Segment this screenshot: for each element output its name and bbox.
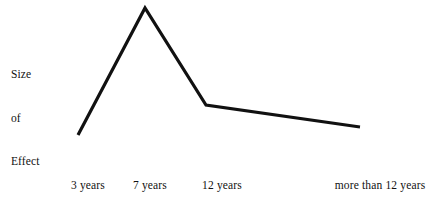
y-axis-label-line-1: Size (11, 67, 39, 82)
x-tick-label-3-years: 3 years (71, 178, 105, 192)
x-tick-label-12-years: 12 years (202, 178, 242, 192)
x-tick-label-more-than-12-years: more than 12 years (335, 178, 426, 192)
x-tick-label-7-years: 7 years (133, 178, 167, 192)
effect-size-line (78, 8, 360, 135)
y-axis-label-line-3: Effect (11, 154, 39, 169)
chart-figure: Size of Effect 3 years 7 years 12 years … (0, 0, 441, 204)
y-axis-label: Size of Effect (11, 38, 39, 198)
line-chart-plot (0, 0, 441, 204)
y-axis-label-line-2: of (11, 111, 39, 126)
